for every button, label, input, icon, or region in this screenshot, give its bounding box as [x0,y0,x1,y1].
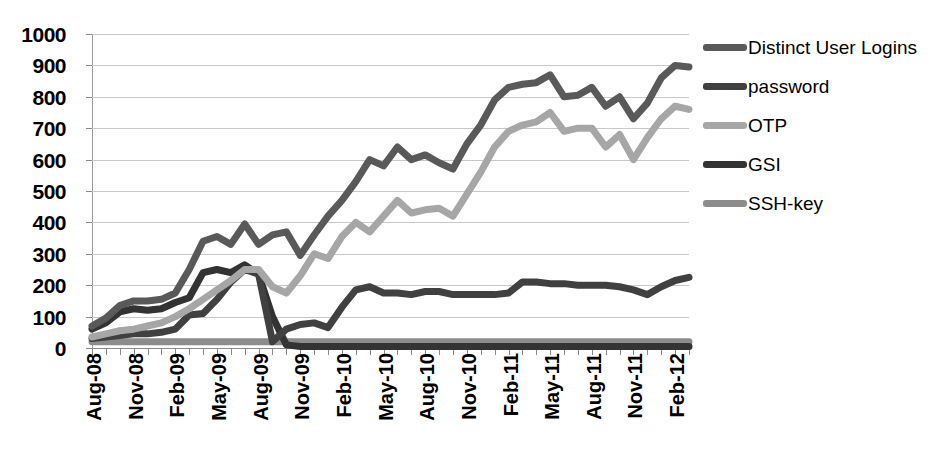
x-tick-label: Feb-12 [667,353,687,417]
y-tick-label: 100 [32,306,66,327]
legend-item[interactable]: password [703,69,935,103]
x-tick-label: Aug-11 [584,353,604,420]
y-tick-label: 0 [55,338,66,359]
legend-swatch-icon [703,122,747,129]
legend-item[interactable]: OTP [703,108,935,142]
x-tick-label: Nov-11 [625,353,645,419]
legend-item[interactable]: Distinct User Logins [703,30,935,64]
legend-label: OTP [748,116,787,135]
x-axis: Aug-08Nov-08Feb-09May-09Aug-09Nov-09Feb-… [92,349,712,465]
y-tick-label: 700 [32,118,66,139]
x-tick-label: May-10 [376,353,396,421]
x-tick-label: Feb-11 [501,353,521,416]
series-lines [92,34,689,348]
y-tick-label: 1000 [21,24,66,45]
legend-swatch-icon [703,161,747,168]
plot-area [92,34,689,348]
y-tick-label: 400 [32,212,66,233]
y-axis: 10009008007006005004003002001000 [0,0,74,465]
legend-label: SSH-key [748,194,823,213]
x-tick-label: Nov-10 [459,353,479,420]
line-chart: 10009008007006005004003002001000 Aug-08N… [0,0,938,465]
chart-legend: Distinct User LoginspasswordOTPGSISSH-ke… [703,30,935,225]
x-tick-label: Feb-10 [334,353,354,417]
x-tick-label: Nov-09 [292,353,312,420]
x-tick-label: Nov-08 [126,353,146,420]
legend-label: Distinct User Logins [748,38,917,57]
y-tick-label: 600 [32,149,66,170]
legend-swatch-icon [703,200,747,207]
x-tick-label: May-11 [542,353,562,420]
legend-label: GSI [748,155,781,174]
x-tick-label: May-09 [209,353,229,421]
legend-label: password [748,77,829,96]
x-tick-label: Aug-09 [251,353,271,421]
y-tick-label: 900 [32,55,66,76]
legend-item[interactable]: GSI [703,147,935,181]
x-tick-label: Aug-10 [417,353,437,421]
legend-item[interactable]: SSH-key [703,186,935,220]
legend-swatch-icon [703,44,747,51]
x-tick-label: Aug-08 [84,353,104,421]
y-tick-label: 800 [32,86,66,107]
y-tick-label: 500 [32,181,66,202]
legend-swatch-icon [703,83,747,90]
x-tick-label: Feb-09 [167,353,187,417]
y-tick-label: 200 [32,275,66,296]
y-tick-label: 300 [32,243,66,264]
